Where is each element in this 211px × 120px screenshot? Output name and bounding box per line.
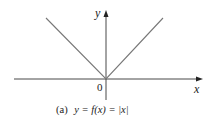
caption-formula: y = f(x) = |x| [74, 104, 128, 115]
abs-curve [46, 18, 163, 79]
caption-prefix: (a) [56, 104, 68, 115]
y-axis-label: y [95, 7, 100, 19]
origin-label: 0 [97, 82, 103, 93]
figure: y x 0 (a) y = f(x) = |x| [0, 0, 211, 120]
y-axis-arrow-icon [104, 10, 109, 17]
x-axis-label: x [194, 83, 199, 95]
plot-area [0, 0, 211, 120]
caption: (a) y = f(x) = |x| [56, 104, 129, 115]
x-axis-arrow-icon [196, 77, 203, 82]
